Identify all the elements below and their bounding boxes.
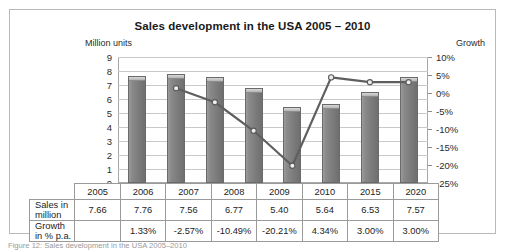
table-cell: 5.64	[302, 200, 347, 221]
left-tick-label: 2	[86, 150, 112, 161]
table-cell: -10.49%	[211, 221, 256, 242]
table-header-2015: 2015	[348, 184, 393, 200]
growth-marker	[174, 86, 179, 91]
left-tick-label: 8	[86, 66, 112, 77]
table-header-2007: 2007	[166, 184, 211, 200]
growth-marker	[251, 128, 256, 133]
right-tick-label: 0%	[436, 88, 470, 99]
table-cell: 7.56	[166, 200, 211, 221]
table-cell: 6.53	[348, 200, 393, 221]
table-header-2008: 2008	[211, 184, 256, 200]
table-cell: 3.00%	[348, 221, 393, 242]
left-tick-label: 3	[86, 136, 112, 147]
table-cell: 1.33%	[120, 221, 165, 242]
table-cell: 7.57	[393, 200, 439, 221]
table-cell: -20.21%	[257, 221, 302, 242]
right-tick-mark	[428, 147, 432, 148]
right-tick-mark	[428, 93, 432, 94]
right-tick-mark	[428, 165, 432, 166]
figure-caption: Figure 12: Sales development in the USA …	[8, 241, 187, 251]
right-tick-label: -20%	[436, 160, 470, 171]
right-tick-mark	[428, 111, 432, 112]
table-row-label: Growth in % p.a.	[30, 221, 75, 242]
table-header-2006: 2006	[120, 184, 165, 200]
left-tick-label: 4	[86, 122, 112, 133]
table-cell: -2.57%	[166, 221, 211, 242]
growth-marker	[329, 75, 334, 80]
right-axis-title: Growth	[456, 38, 485, 48]
table-row: Sales in million7.667.767.566.775.405.64…	[30, 200, 439, 221]
table-header-2009: 2009	[257, 184, 302, 200]
table-cell: 7.66	[75, 200, 120, 221]
table-cell	[75, 221, 120, 242]
table-cell: 6.77	[211, 200, 256, 221]
table-header-2020: 2020	[393, 184, 439, 200]
left-tick-label: 7	[86, 80, 112, 91]
growth-marker	[367, 80, 372, 85]
data-table: 20052006200720082009201020152020Sales in…	[29, 183, 439, 242]
left-tick-label: 6	[86, 94, 112, 105]
right-tick-label: 10%	[436, 52, 470, 63]
table-row-label: Sales in million	[30, 200, 75, 221]
right-tick-label: 5%	[436, 70, 470, 81]
table-cell: 3.00%	[393, 221, 439, 242]
left-tick-label: 1	[86, 164, 112, 175]
figure-frame: Sales development in the USA 2005 – 2010…	[9, 9, 496, 234]
table-cell: 4.34%	[302, 221, 347, 242]
right-tick-mark	[428, 75, 432, 76]
right-tick-label: -15%	[436, 142, 470, 153]
growth-marker	[290, 163, 295, 168]
right-tick-label: -10%	[436, 124, 470, 135]
table-cell: 5.40	[257, 200, 302, 221]
left-tick-label: 9	[86, 52, 112, 63]
right-tick-label: -5%	[436, 106, 470, 117]
growth-marker	[212, 100, 217, 105]
table-header-row: 20052006200720082009201020152020	[30, 184, 439, 200]
growth-marker	[406, 80, 411, 85]
growth-line	[176, 77, 409, 165]
right-tick-mark	[428, 129, 432, 130]
left-axis-title: Million units	[85, 38, 132, 48]
plot-area	[118, 57, 428, 183]
table-header-2010: 2010	[302, 184, 347, 200]
table-header-2005: 2005	[75, 184, 120, 200]
table-cell: 7.76	[120, 200, 165, 221]
table-row: Growth in % p.a.1.33%-2.57%-10.49%-20.21…	[30, 221, 439, 242]
right-tick-label: -25%	[436, 178, 470, 189]
left-tick-label: 5	[86, 108, 112, 119]
right-tick-mark	[428, 57, 432, 58]
growth-line-layer	[118, 57, 428, 183]
chart-title: Sales development in the USA 2005 – 2010	[10, 20, 495, 32]
